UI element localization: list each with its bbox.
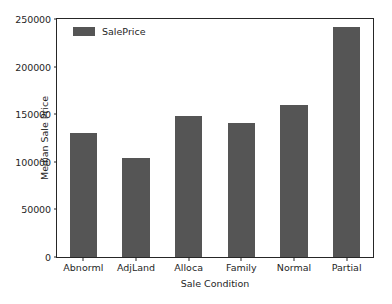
y-axis-label: Median Sale Price (39, 96, 50, 180)
x-tick-mark (188, 257, 189, 261)
x-tick-label: AdjLand (117, 262, 155, 273)
x-tick-label: Normal (277, 262, 311, 273)
x-tick-label: Family (226, 262, 257, 273)
legend-label-saleprice: SalePrice (102, 26, 146, 37)
y-tick-label: 250000 (15, 14, 51, 25)
x-tick-mark (83, 257, 84, 261)
bar (333, 27, 360, 257)
bar-chart-figure: Median Sale Price 0500001000001500002000… (0, 0, 392, 304)
x-tick-mark (346, 257, 347, 261)
bar (122, 158, 149, 257)
x-tick-mark (136, 257, 137, 261)
x-tick-label: Alloca (174, 262, 203, 273)
x-tick-label: Abnorml (63, 262, 103, 273)
bar (175, 116, 202, 257)
y-tick-label: 200000 (15, 61, 51, 72)
legend: SalePrice (69, 25, 150, 38)
legend-swatch-saleprice (73, 27, 95, 36)
bar-series-saleprice (57, 19, 373, 257)
bar (228, 123, 255, 257)
plot-area: 050000100000150000200000250000 AbnormlAd… (56, 18, 374, 258)
y-tick-label: 0 (45, 252, 51, 263)
bar (280, 105, 307, 257)
x-tick-mark (241, 257, 242, 261)
x-tick-mark (294, 257, 295, 261)
x-tick-label: Partial (332, 262, 362, 273)
x-axis-label: Sale Condition (56, 278, 374, 289)
bar (70, 133, 97, 257)
y-tick-label: 50000 (21, 204, 51, 215)
